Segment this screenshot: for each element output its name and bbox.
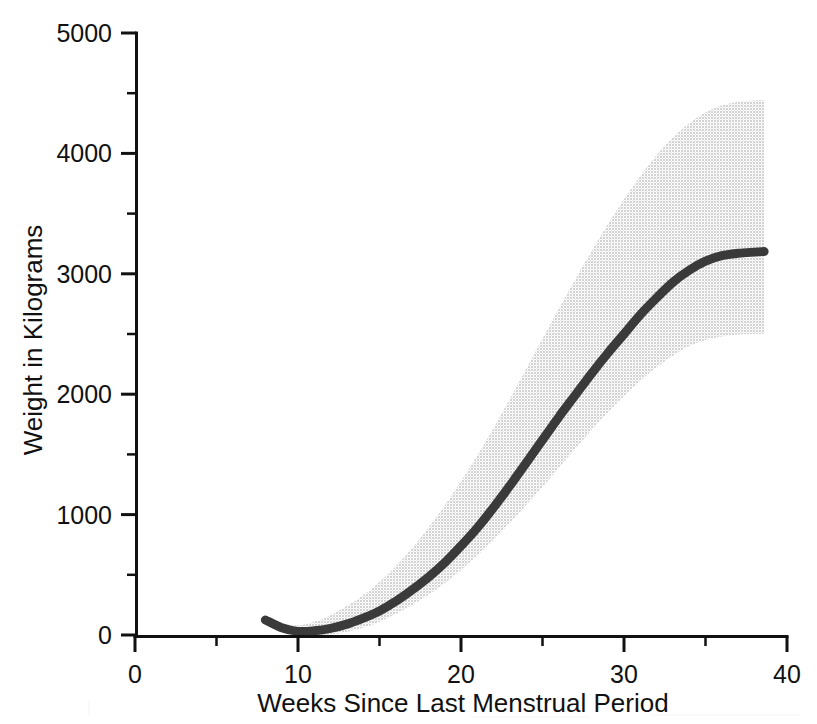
y-axis-title: Weight in Kilograms bbox=[18, 225, 48, 456]
chart-figure: 010002000300040005000 010203040 Weight i… bbox=[0, 0, 817, 724]
y-tick-label: 0 bbox=[98, 621, 112, 649]
x-tick-label: 30 bbox=[610, 660, 638, 688]
fetal-weight-growth-chart: 010002000300040005000 010203040 Weight i… bbox=[0, 0, 817, 724]
chart-background bbox=[0, 0, 817, 724]
x-tick-label: 10 bbox=[284, 660, 312, 688]
y-tick-label: 2000 bbox=[56, 380, 112, 408]
x-tick-label: 20 bbox=[447, 660, 475, 688]
y-tick-label: 3000 bbox=[56, 260, 112, 288]
y-tick-label: 4000 bbox=[56, 139, 112, 167]
x-tick-label: 0 bbox=[128, 660, 142, 688]
y-tick-label: 1000 bbox=[56, 501, 112, 529]
x-axis-title: Weeks Since Last Menstrual Period bbox=[257, 688, 668, 718]
y-tick-label: 5000 bbox=[56, 19, 112, 47]
x-tick-label: 40 bbox=[773, 660, 801, 688]
